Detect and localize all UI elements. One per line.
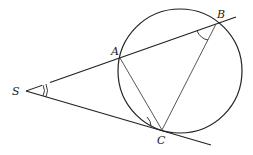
angle-mark-b [197, 31, 208, 40]
label-s: S [12, 85, 20, 98]
secant-line-start [26, 85, 42, 91]
geometry-diagram: S A B C [0, 0, 253, 155]
circle [118, 9, 242, 133]
angle-mark-s [43, 85, 45, 96]
secant-line-sab [50, 17, 236, 83]
angle-mark-s-2 [46, 84, 48, 97]
tangent-line-sc [26, 91, 211, 145]
label-a: A [110, 45, 119, 58]
label-b: B [216, 8, 225, 21]
label-c: C [157, 134, 166, 147]
